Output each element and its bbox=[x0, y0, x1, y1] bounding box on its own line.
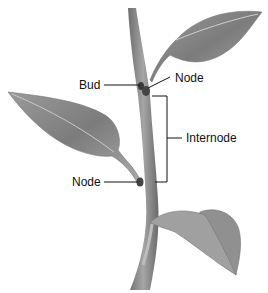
label-internode: Internode bbox=[186, 131, 237, 145]
label-bud: Bud bbox=[79, 78, 100, 92]
leaf-upper-right bbox=[150, 11, 262, 82]
label-node-top: Node bbox=[175, 71, 204, 85]
stem bbox=[128, 8, 159, 290]
plant-illustration bbox=[0, 0, 268, 293]
label-node-bottom: Node bbox=[72, 175, 101, 189]
leaf-left bbox=[8, 92, 140, 182]
